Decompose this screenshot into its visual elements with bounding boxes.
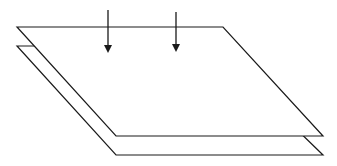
diagram-canvas	[0, 0, 337, 166]
diagram-svg	[0, 0, 337, 166]
